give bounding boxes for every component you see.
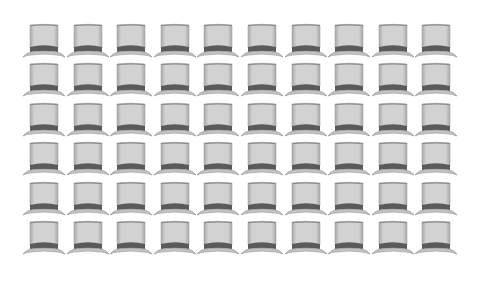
top-hat-icon — [153, 61, 197, 101]
top-hat-icon — [22, 101, 66, 141]
top-hat-icon — [327, 219, 371, 259]
top-hat-icon — [22, 22, 66, 62]
top-hat-icon — [284, 219, 328, 259]
top-hat-icon — [109, 140, 153, 180]
top-hat-icon — [327, 22, 371, 62]
top-hat-icon — [153, 219, 197, 259]
top-hat-icon — [153, 22, 197, 62]
top-hat-icon — [196, 140, 240, 180]
top-hat-icon — [284, 22, 328, 62]
top-hat-icon — [109, 219, 153, 259]
top-hat-icon — [240, 219, 284, 259]
top-hat-icon — [109, 101, 153, 141]
top-hat-icon — [153, 101, 197, 141]
top-hat-icon — [327, 61, 371, 101]
top-hat-icon — [196, 219, 240, 259]
top-hat-icon — [66, 140, 110, 180]
top-hat-icon — [22, 61, 66, 101]
top-hat-icon — [327, 101, 371, 141]
top-hat-icon — [327, 140, 371, 180]
top-hat-icon — [196, 61, 240, 101]
top-hat-icon — [414, 61, 458, 101]
top-hat-icon — [327, 180, 371, 220]
top-hat-icon — [414, 180, 458, 220]
top-hat-icon — [240, 101, 284, 141]
top-hat-icon — [22, 219, 66, 259]
top-hat-icon — [240, 22, 284, 62]
top-hat-icon — [109, 180, 153, 220]
top-hat-icon — [196, 101, 240, 141]
top-hat-icon — [284, 61, 328, 101]
top-hat-icon — [284, 140, 328, 180]
top-hat-icon — [196, 180, 240, 220]
top-hat-icon — [414, 22, 458, 62]
top-hat-icon — [66, 180, 110, 220]
top-hat-icon — [240, 180, 284, 220]
top-hat-icon — [371, 22, 415, 62]
top-hat-icon — [153, 180, 197, 220]
top-hat-icon — [22, 180, 66, 220]
top-hat-icon — [414, 101, 458, 141]
top-hat-icon — [371, 180, 415, 220]
top-hat-grid-canvas — [0, 0, 481, 281]
top-hat-icon — [414, 140, 458, 180]
top-hat-icon — [109, 61, 153, 101]
top-hat-icon — [153, 140, 197, 180]
top-hat-icon — [66, 219, 110, 259]
top-hat-icon — [284, 180, 328, 220]
top-hat-icon — [414, 219, 458, 259]
top-hat-icon — [240, 61, 284, 101]
top-hat-icon — [240, 140, 284, 180]
top-hat-icon — [196, 22, 240, 62]
top-hat-icon — [371, 101, 415, 141]
top-hat-icon — [371, 219, 415, 259]
top-hat-icon — [66, 101, 110, 141]
top-hat-icon — [284, 101, 328, 141]
top-hat-icon — [371, 61, 415, 101]
top-hat-icon — [66, 61, 110, 101]
top-hat-icon — [109, 22, 153, 62]
top-hat-icon — [371, 140, 415, 180]
top-hat-grid — [22, 22, 458, 258]
top-hat-icon — [66, 22, 110, 62]
top-hat-icon — [22, 140, 66, 180]
